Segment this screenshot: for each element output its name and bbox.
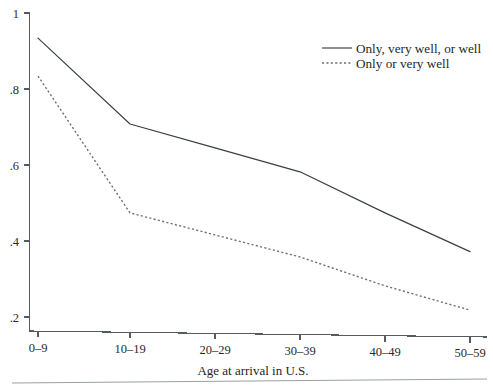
y-tick-marks (24, 13, 30, 317)
x-tick-marks (38, 331, 470, 343)
footer-rule (12, 379, 487, 383)
line-chart: 1 .8 .6 .4 .2 0–9 10–19 20–29 30–39 40–4… (0, 0, 493, 387)
x-tick-label: 20–29 (199, 343, 230, 357)
y-tick-label: 1 (13, 7, 19, 21)
y-tick-label: .6 (10, 159, 19, 173)
x-tick-label: 10–19 (114, 342, 145, 356)
chart-container: 1 .8 .6 .4 .2 0–9 10–19 20–29 30–39 40–4… (0, 0, 493, 387)
series-line-only-or-very-well (38, 76, 470, 310)
y-tick-label: .2 (10, 311, 19, 325)
y-tick-label: .4 (10, 235, 20, 249)
y-tick-label: .8 (10, 83, 19, 97)
x-tick-label: 0–9 (29, 341, 48, 355)
x-tick-label: 50–59 (454, 346, 485, 360)
legend-label-solid: Only, very well, or well (356, 41, 481, 56)
x-tick-labels: 0–9 10–19 20–29 30–39 40–49 50–59 (29, 341, 486, 360)
legend-label-dotted: Only or very well (356, 56, 450, 71)
x-tick-label: 40–49 (369, 345, 400, 359)
y-tick-labels: 1 .8 .6 .4 .2 (10, 7, 20, 325)
x-axis-title: Age at arrival in U.S. (197, 363, 308, 378)
x-tick-label: 30–39 (284, 344, 315, 358)
chart-legend: Only, very well, or well Only or very we… (322, 41, 481, 71)
x-axis-line (30, 331, 488, 337)
